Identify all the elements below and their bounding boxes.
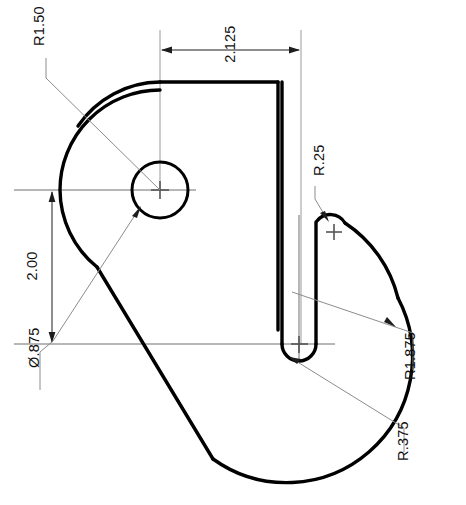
- cad-canvas: R1.50 2.125 R.25 2.00 Ø.875 R1.875 R.375: [0, 0, 466, 505]
- arrow-head-2125-right: [289, 47, 300, 54]
- leader-dia875-line: [53, 209, 139, 341]
- dimension-label-r1875: R1.875: [402, 332, 418, 380]
- dimension-label-2125: 2.125: [222, 25, 238, 62]
- dimension-label-r150: R1.50: [31, 6, 47, 46]
- dimension-label-200: 2.00: [24, 251, 40, 280]
- profile-right-large-arc: [213, 298, 412, 483]
- leader-dia875-elbow: [40, 341, 53, 352]
- dimension-label-dia875: Ø.875: [26, 328, 42, 369]
- leader-r1875-line: [292, 292, 413, 333]
- profile-diagonal-tangent: [97, 267, 213, 459]
- arrow-head-2125-left: [161, 47, 172, 54]
- dimension-label-r375: R.375: [395, 421, 411, 461]
- arrow-head-200-top: [49, 191, 56, 202]
- technical-drawing: R1.50 2.125 R.25 2.00 Ø.875 R1.875 R.375: [0, 0, 466, 505]
- leader-r375-line: [291, 358, 404, 428]
- profile-right-arc-upper: [345, 223, 398, 298]
- profile-left-arc: [60, 90, 160, 267]
- dimension-label-r25: R.25: [311, 145, 327, 176]
- profile-slot-top-fillet: [317, 215, 345, 223]
